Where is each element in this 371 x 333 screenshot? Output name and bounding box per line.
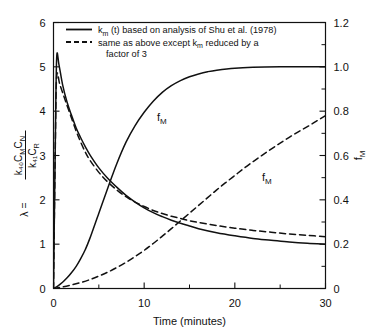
y-left-tick-label: 5 — [39, 61, 45, 73]
chart-svg: 0102030012345600.20.40.60.81.01.2fMfMTim… — [0, 0, 371, 333]
legend-rest-1: reduced by a — [203, 38, 260, 48]
y-right-axis-title-sub: M — [358, 150, 367, 157]
annotation-fm-dashed-label: fM — [262, 171, 272, 186]
y-left-tick-label: 1 — [39, 238, 45, 250]
num-mid-c: C — [13, 141, 24, 148]
x-tick-label: 20 — [229, 297, 241, 309]
den-sub-r: R — [32, 142, 41, 148]
fm-solid-label-text: fM — [157, 111, 167, 126]
y-right-axis-title: fM — [352, 150, 367, 160]
series-lambda-dashed — [54, 73, 326, 289]
series-lambda-solid — [54, 53, 326, 289]
y-left-tick-label: 2 — [39, 194, 45, 206]
plot-frame — [54, 23, 326, 289]
legend-label-1: same as above except km reduced by a — [98, 38, 259, 50]
annotation-fm-solid-label: fM — [157, 111, 167, 126]
y-right-tick-label: 1.0 — [334, 61, 349, 73]
series-fm-solid — [54, 67, 326, 289]
x-tick-label: 30 — [319, 297, 331, 309]
y-right-tick-label: 0.4 — [334, 194, 349, 206]
y-left-axis-title: λ =k₄₀CMCNk₄₁CR — [13, 131, 41, 217]
fm-solid-label-sub: M — [160, 117, 167, 126]
x-tick-label: 10 — [138, 297, 150, 309]
y-left-tick-label: 0 — [39, 283, 45, 295]
legend-label-0: km (t) based on analysis of Shu et al. (… — [98, 25, 276, 37]
x-tick-label: 0 — [50, 297, 56, 309]
y-right-tick-label: 0.2 — [334, 238, 349, 250]
legend-label-2: factor of 3 — [106, 49, 147, 59]
y-right-tick-label: 1.2 — [334, 17, 349, 29]
y-left-tick-label: 6 — [39, 17, 45, 29]
y-left-axis-numerator: k₄₀CMCN — [13, 136, 27, 175]
y-left-tick-label: 3 — [39, 150, 45, 162]
y-right-tick-label: 0.8 — [334, 105, 349, 117]
figure-container: 0102030012345600.20.40.60.81.01.2fMfMTim… — [0, 0, 371, 333]
y-left-axis-title-lead: λ = — [18, 202, 30, 216]
y-left-tick-label: 4 — [39, 105, 45, 117]
legend-rest-0: (t) based on analysis of Shu et al. (197… — [108, 25, 276, 35]
y-right-tick-label: 0 — [334, 283, 340, 295]
series-fm-dashed — [54, 116, 326, 289]
fm-dashed-label-text: fM — [262, 171, 272, 186]
y-right-tick-label: 0.6 — [334, 150, 349, 162]
x-axis-title: Time (minutes) — [153, 315, 226, 327]
fm-dashed-label-sub: M — [265, 177, 272, 186]
